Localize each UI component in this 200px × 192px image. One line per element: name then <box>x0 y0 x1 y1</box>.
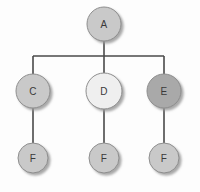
nodes-layer: ACDEFFF <box>16 7 181 173</box>
tree-node-circle-F3[interactable] <box>149 143 179 173</box>
tree-diagram-canvas: ACDEFFF <box>0 0 200 192</box>
tree-node-E[interactable]: E <box>147 74 181 108</box>
tree-node-circle-D[interactable] <box>86 73 122 109</box>
tree-node-A[interactable]: A <box>87 7 121 41</box>
tree-node-C[interactable]: C <box>16 74 50 108</box>
tree-node-circle-F1[interactable] <box>18 143 48 173</box>
tree-node-circle-E[interactable] <box>147 74 181 108</box>
tree-node-circle-C[interactable] <box>16 74 50 108</box>
tree-node-circle-F2[interactable] <box>89 143 119 173</box>
tree-node-D[interactable]: D <box>86 73 122 109</box>
tree-node-F1[interactable]: F <box>18 143 48 173</box>
tree-node-F2[interactable]: F <box>89 143 119 173</box>
tree-node-circle-A[interactable] <box>87 7 121 41</box>
tree-node-F3[interactable]: F <box>149 143 179 173</box>
tree-diagram-svg: ACDEFFF <box>0 0 200 192</box>
